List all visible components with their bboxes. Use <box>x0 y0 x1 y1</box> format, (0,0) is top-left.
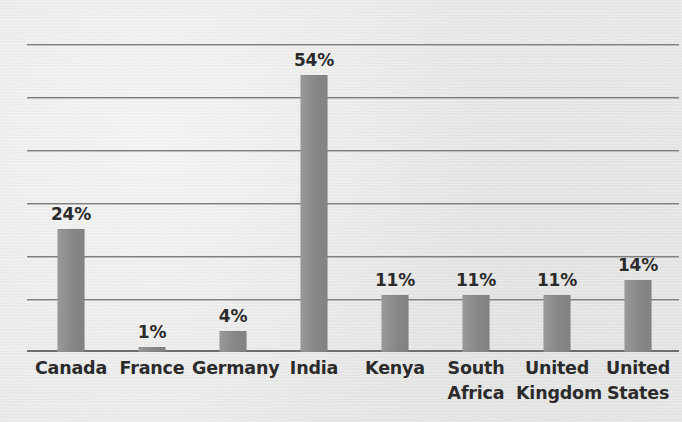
bar-canada[interactable] <box>58 229 85 352</box>
bar-group-south-africa: 11% <box>438 44 514 352</box>
bar-group-germany: 4% <box>195 44 271 352</box>
bar-united-kingdom[interactable] <box>544 295 571 352</box>
bar-france[interactable] <box>139 347 166 352</box>
x-label-germany: Germany <box>192 356 274 381</box>
x-label-united-states: United States <box>600 356 676 406</box>
bar-group-kenya: 11% <box>357 44 433 352</box>
bar-value-canada: 24% <box>51 204 91 224</box>
x-label-india: India <box>276 356 352 381</box>
bar-value-united-states: 14% <box>618 255 658 275</box>
bar-value-kenya: 11% <box>375 270 415 290</box>
bar-germany[interactable] <box>220 331 247 352</box>
x-label-canada: Canada <box>33 356 109 381</box>
bar-value-united-kingdom: 11% <box>537 270 577 290</box>
x-label-kenya: Kenya <box>357 356 433 381</box>
bar-group-france: 1% <box>114 44 190 352</box>
bar-value-france: 1% <box>138 322 166 342</box>
plot-area: 24% 1% 4% 54% 11% 11% <box>27 44 679 352</box>
bar-group-india: 54% <box>276 44 352 352</box>
bar-india[interactable] <box>301 75 328 352</box>
bar-group-united-kingdom: 11% <box>519 44 595 352</box>
bar-united-states[interactable] <box>625 280 652 352</box>
bar-group-united-states: 14% <box>600 44 676 352</box>
bars-layer: 24% 1% 4% 54% 11% 11% <box>27 44 679 352</box>
bar-group-canada: 24% <box>33 44 109 352</box>
x-label-south-africa: South Africa <box>438 356 514 406</box>
bar-value-india: 54% <box>294 50 334 70</box>
bar-south-africa[interactable] <box>463 295 490 352</box>
x-label-france: France <box>114 356 190 381</box>
bar-chart: 24% 1% 4% 54% 11% 11% <box>0 0 682 422</box>
x-axis-labels: Canada France Germany India Kenya South … <box>27 356 679 418</box>
x-label-united-kingdom: United Kingdom <box>516 356 598 406</box>
bar-kenya[interactable] <box>382 295 409 352</box>
bar-value-germany: 4% <box>219 306 247 326</box>
bar-value-south-africa: 11% <box>456 270 496 290</box>
